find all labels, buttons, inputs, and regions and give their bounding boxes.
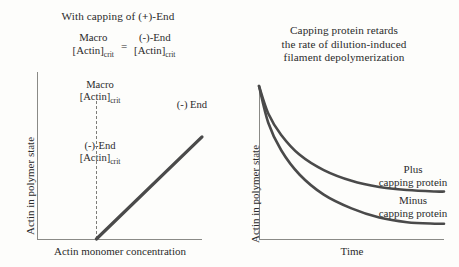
right-chart-x-axis-label: Time <box>259 245 445 257</box>
macro-note-line1: Macro <box>86 79 114 90</box>
equation-right-denominator-subscript: crit <box>165 50 175 59</box>
left-chart-y-axis <box>37 72 38 240</box>
minus-end-critical-concentration-annotation: (-)-End[Actin]crit <box>55 140 145 169</box>
macro-critical-concentration-annotation: Macro[Actin]crit <box>55 79 145 108</box>
minus-end-note-subscript: crit <box>110 158 120 167</box>
minus-end-note-base: [Actin] <box>80 152 111 163</box>
right-panel: Capping protein retards the rate of dilu… <box>229 0 459 267</box>
minus-capping-protein-curve-label: Minus capping protein <box>368 194 458 220</box>
critical-concentration-equation: Macro [Actin]crit = (-)-End [Actin]crit <box>44 31 204 61</box>
minus-end-curve-label: (-) End <box>162 99 222 111</box>
equation-left-fraction: Macro [Actin]crit <box>71 31 116 61</box>
macro-note-base: [Actin] <box>80 91 111 102</box>
equation-right-numerator: (-)-End <box>137 31 173 44</box>
left-chart-y-axis-label: Actin in polymer state <box>24 137 36 235</box>
left-title-suffix: )-End <box>148 10 174 22</box>
equation-left-numerator: Macro <box>77 31 109 44</box>
right-chart-y-axis-label: Actin in polymer state <box>249 145 261 243</box>
left-panel: With capping of (+)-End Macro [Actin]cri… <box>0 0 229 267</box>
left-chart-x-axis-label: Actin monomer concentration <box>37 245 203 257</box>
plus-capping-protein-curve-label: Plus capping protein <box>368 163 458 189</box>
equation-right-denominator-base: [Actin] <box>134 44 165 56</box>
equation-right-fraction: (-)-End [Actin]crit <box>132 31 177 61</box>
critical-concentration-dashed-line <box>96 101 97 239</box>
macro-note-subscript: crit <box>110 97 120 106</box>
left-panel-title: With capping of (+)-End <box>18 10 218 24</box>
equation-left-denominator-base: [Actin] <box>73 44 104 56</box>
equation-left-denominator-subscript: crit <box>104 50 114 59</box>
left-title-prefix: With capping of ( <box>62 10 142 22</box>
equation-right-denominator: [Actin]crit <box>132 44 177 62</box>
minus-end-note-line1: (-)-End <box>84 140 115 151</box>
equation-left-denominator: [Actin]crit <box>71 44 116 62</box>
right-panel-title: Capping protein retards the rate of dilu… <box>241 24 447 65</box>
right-chart-x-axis <box>259 239 444 240</box>
equation-operator: = <box>121 40 127 53</box>
left-chart-x-axis <box>37 239 202 240</box>
